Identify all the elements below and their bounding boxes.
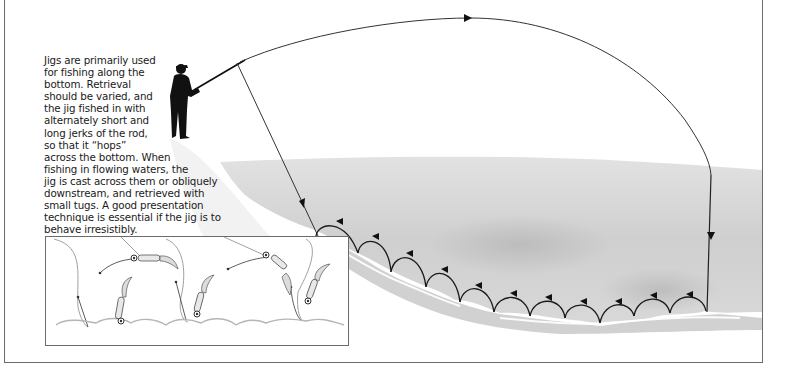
description-line: long jerks of the rod, <box>44 127 219 139</box>
description-text: Jigs are primarily used for fishing alon… <box>44 54 219 235</box>
jig-icon <box>115 277 132 324</box>
jig-icon <box>194 275 214 317</box>
description-line: bottom. Retrieval <box>44 78 219 90</box>
description-line: alternately short and <box>44 114 219 126</box>
description-line: jig is cast across them or obliquely <box>44 175 219 187</box>
description-line: fishing in flowing waters, the <box>44 163 219 175</box>
jig-icon <box>263 252 291 295</box>
description-line: the jig fished in with <box>44 102 219 114</box>
description-line: behave irresistibly. <box>44 223 219 235</box>
jig-icon <box>305 264 330 304</box>
jig-detail-drawing <box>46 237 349 346</box>
description-line: should be varied, and <box>44 90 219 102</box>
description-line: Jigs are primarily used <box>44 54 219 66</box>
description-line: technique is essential if the jig is to <box>44 211 219 223</box>
description-line: downstream, and retrieved with <box>44 187 219 199</box>
description-line: across the bottom. When <box>44 151 219 163</box>
description-line: small tugs. A good presentation <box>44 199 219 211</box>
jig-icon <box>131 255 178 269</box>
jig-detail-inset <box>45 236 349 346</box>
description-line: for fishing along the <box>44 66 219 78</box>
description-line: so that it “hops” <box>44 139 219 151</box>
